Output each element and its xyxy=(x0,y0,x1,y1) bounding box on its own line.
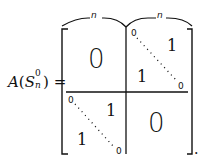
top-right-lower-one: 1 xyxy=(137,67,147,86)
matrix-structure xyxy=(0,0,203,167)
brace-label-left: n xyxy=(91,10,97,20)
block-bottom-right-zero: 0 xyxy=(148,108,165,138)
brace-label-right: n xyxy=(157,10,163,20)
trailing-period: . xyxy=(194,141,198,157)
bottom-left-corner-top: 0 xyxy=(68,95,74,105)
bottom-left-upper-one: 1 xyxy=(106,101,116,120)
top-right-corner-bottom: 0 xyxy=(178,81,184,91)
top-right-corner-top: 0 xyxy=(131,28,137,38)
block-top-left-zero: 0 xyxy=(88,44,105,74)
bottom-left-lower-one: 1 xyxy=(77,130,87,149)
bottom-left-corner-bottom: 0 xyxy=(116,146,122,156)
top-right-upper-one: 1 xyxy=(167,36,177,55)
